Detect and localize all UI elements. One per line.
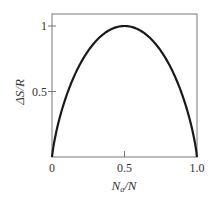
plot-frame <box>52 14 197 157</box>
entropy-chart: 0.51 00.51.0 ΔS/R Na/N <box>0 0 218 201</box>
y-axis-label: ΔS/R <box>12 79 27 106</box>
entropy-curve <box>52 26 197 157</box>
y-tick-label: 0.5 <box>32 85 47 99</box>
x-tick-label: 0 <box>49 161 55 175</box>
x-tick-label: 1.0 <box>190 161 205 175</box>
x-tick-label: 0.5 <box>117 161 132 175</box>
x-axis-ticks: 00.51.0 <box>49 151 205 175</box>
x-axis-label: Na/N <box>111 178 138 194</box>
x-label-tail: /N <box>123 178 138 193</box>
y-tick-label: 1 <box>41 19 47 33</box>
